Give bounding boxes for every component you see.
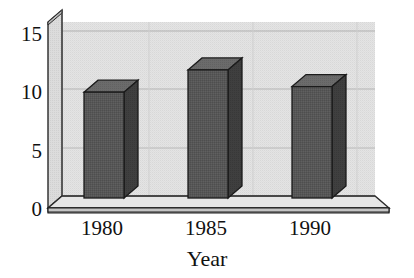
x-axis-title: Year xyxy=(0,248,414,270)
y-tick-label-15: 15 xyxy=(12,24,42,45)
baseline xyxy=(48,208,389,212)
bar-chart: 15 10 5 0 1980 1985 1990 Year xyxy=(0,0,414,278)
bar-1985[interactable] xyxy=(188,58,242,198)
y-tick-label-5: 5 xyxy=(12,141,42,162)
y-tick-label-10: 10 xyxy=(12,82,42,103)
x-tick-label-1980: 1980 xyxy=(62,218,142,239)
y-tick-label-0: 0 xyxy=(12,199,42,220)
x-tick-label-1990: 1990 xyxy=(270,218,350,239)
bar-1980[interactable] xyxy=(84,80,138,198)
y-axis-wall xyxy=(48,10,62,208)
bar-1990[interactable] xyxy=(292,75,346,198)
x-tick-label-1985: 1985 xyxy=(166,218,246,239)
